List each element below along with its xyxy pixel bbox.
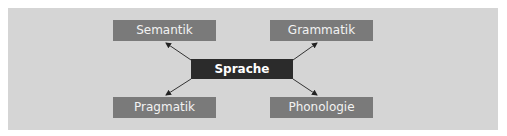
node-semantik: Semantik <box>113 20 216 41</box>
node-phonologie: Phonologie <box>270 97 373 118</box>
node-grammatik: Grammatik <box>270 20 373 41</box>
node-sprache: Sprache <box>191 59 293 79</box>
node-pragmatik: Pragmatik <box>113 97 216 118</box>
